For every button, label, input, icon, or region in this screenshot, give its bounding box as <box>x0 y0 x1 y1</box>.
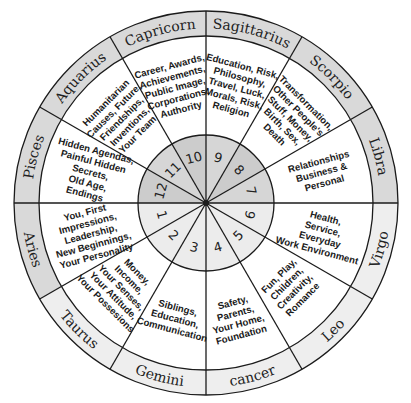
zodiac-houses-wheel: You, FirstImpressions,Leadership,New Beg… <box>0 0 411 403</box>
center-point <box>203 200 209 206</box>
